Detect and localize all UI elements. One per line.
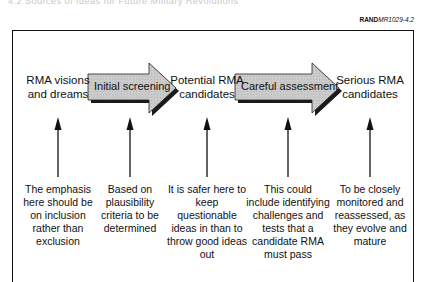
pointer-arrow-head: [367, 117, 374, 130]
pointer-arrow-safer: [204, 117, 211, 177]
stage-rma-visions: RMA visions and dreams: [18, 73, 98, 101]
pointer-arrow-plausibility: [127, 117, 134, 177]
stage-serious-candidates: Serious RMA candidates: [330, 73, 410, 101]
pointer-arrow-head: [285, 117, 292, 130]
note-monitored: To be closely monitored and reassessed, …: [333, 183, 407, 248]
pointer-arrow-head: [127, 117, 134, 130]
figure-page: 4.2 Sources of Ideas for Future Military…: [0, 0, 430, 282]
pointer-arrow-head: [55, 117, 62, 130]
note-challenges: This could include identifying challenge…: [246, 183, 330, 261]
initial-screening-label: Initial screening: [94, 80, 170, 92]
stage-potential-candidates: Potential RMA candidates: [167, 73, 247, 101]
note-plausibility: Based on plausibility criteria to be det…: [96, 183, 164, 235]
pointer-arrow-monitored: [367, 117, 374, 177]
pointer-arrow-challenges: [285, 117, 292, 177]
pointer-arrow-head: [204, 117, 211, 130]
pointer-arrow-inclusion: [55, 117, 62, 177]
note-safer: It is safer here to keep questionable id…: [166, 183, 248, 261]
careful-assessment-label: Careful assessment: [241, 80, 338, 92]
note-inclusion: The emphasis here should be on inclusion…: [17, 183, 99, 248]
